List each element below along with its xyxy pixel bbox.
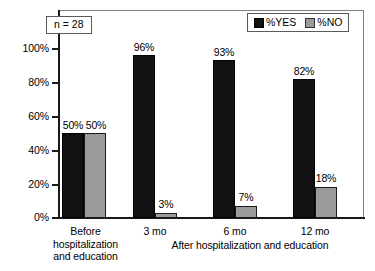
value-label-6mo-yes: 93% [208, 47, 240, 58]
sample-size-text: n = 28 [54, 18, 84, 30]
y-axis-label-0: 0% [34, 212, 49, 223]
y-axis-label-60: 60% [28, 111, 49, 122]
y-axis-line [58, 10, 60, 218]
y-tick-80 [52, 82, 59, 84]
x-label-12mo: 12 mo [290, 225, 340, 238]
x-axis-title: After hospitalization and education [135, 239, 365, 252]
bar-before-yes [62, 133, 84, 218]
chart-legend: %YES %NO [247, 13, 349, 32]
x-label-before-line1: Before [33, 225, 138, 238]
legend-entry-yes: %YES [254, 17, 296, 28]
bar-3mo-no [155, 213, 177, 218]
bar-12mo-yes [293, 79, 315, 218]
y-axis-label-80: 80% [28, 77, 49, 88]
y-tick-100 [52, 48, 59, 50]
value-label-12mo-yes: 82% [288, 66, 320, 77]
y-tick-60 [52, 116, 59, 118]
bar-before-no [84, 133, 106, 218]
black-square-icon [254, 18, 264, 28]
value-label-3mo-yes: 96% [128, 42, 160, 53]
y-tick-0 [52, 217, 59, 219]
x-label-3mo: 3 mo [130, 225, 180, 238]
bar-6mo-no [235, 206, 257, 218]
legend-label-yes: %YES [266, 17, 296, 28]
y-tick-40 [52, 150, 59, 152]
value-label-3mo-no: 3% [152, 199, 180, 210]
y-axis-label-40: 40% [28, 145, 49, 156]
bar-3mo-yes [133, 55, 155, 218]
x-label-6mo: 6 mo [210, 225, 260, 238]
bar-chart: 100% 80% 60% 40% 20% 0% 50% 50% 96% 3% 9… [0, 0, 375, 271]
value-label-before-no: 50% [80, 120, 112, 131]
value-label-6mo-no: 7% [232, 192, 260, 203]
x-label-before-line2: hospitalization [33, 238, 138, 251]
bar-12mo-no [315, 187, 337, 218]
x-label-before-line3: and education [33, 250, 138, 263]
y-axis-label-100: 100% [23, 43, 49, 54]
value-label-12mo-no: 18% [310, 173, 342, 184]
sample-size-box: n = 28 [46, 16, 92, 34]
legend-entry-no: %NO [305, 17, 342, 28]
y-tick-20 [52, 184, 59, 186]
gray-square-icon [305, 18, 315, 28]
legend-label-no: %NO [317, 17, 342, 28]
y-axis-label-20: 20% [28, 179, 49, 190]
x-label-before: Before hospitalization and education [33, 225, 138, 263]
